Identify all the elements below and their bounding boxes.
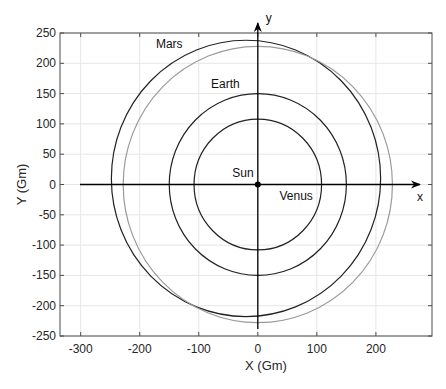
label-sun: Sun [232,166,253,180]
x-tick-label: -300 [69,342,93,356]
x-axis-label: X (Gm) [245,358,287,373]
sun-marker [255,182,261,188]
x-tick-label: 100 [307,342,327,356]
y-tick-label: 250 [36,26,56,40]
label-venus: Venus [280,189,313,203]
label-earth: Earth [211,77,240,91]
orbit-curves [111,40,392,322]
x-tick-label: 0 [254,342,261,356]
x-tick-label: 200 [366,342,386,356]
x-tick-label: -200 [128,342,152,356]
y-tick-label: 150 [36,87,56,101]
label-mars: Mars [156,37,183,51]
planet-labels: MarsEarthSunVenus [156,37,313,203]
y-tick-label: -50 [39,208,57,222]
x-arrow-label: x [417,190,423,204]
y-tick-label: -200 [32,299,56,313]
y-arrow-label: y [266,11,272,25]
y-tick-label: 0 [49,178,56,192]
y-tick-label: 200 [36,56,56,70]
y-tick-label: 100 [36,117,56,131]
x-tick-labels: -300-200-1000100200 [69,342,387,356]
y-tick-label: -250 [32,329,56,343]
y-tick-label: -150 [32,268,56,282]
x-tick-label: -100 [187,342,211,356]
orbit-chart: -300-200-1000100200 250200150100500-50-1… [0,0,446,389]
y-tick-label: -100 [32,238,56,252]
y-axis-label: Y (Gm) [14,164,29,206]
y-tick-label: 50 [43,147,57,161]
y-tick-labels: 250200150100500-50-100-150-200-250 [32,26,56,343]
